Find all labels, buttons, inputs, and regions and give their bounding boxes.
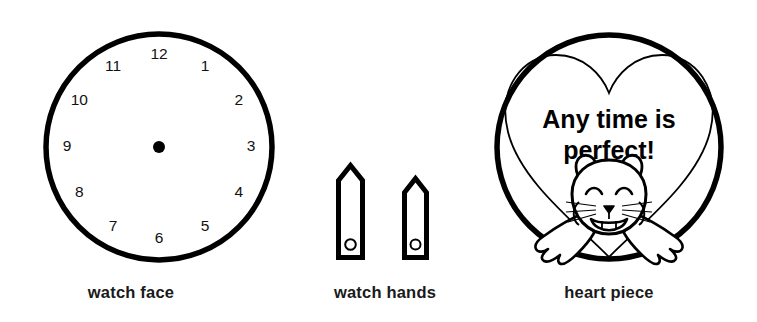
clock-center-dot <box>153 141 165 153</box>
heart-piece-caption: heart piece <box>478 283 740 302</box>
short-hand[interactable] <box>405 179 427 258</box>
craft-template-sheet: 121234567891011 watch face watch hands <box>0 0 757 322</box>
clock-numeral-10: 10 <box>71 91 89 108</box>
clock-numeral-9: 9 <box>63 137 72 154</box>
watch-hands-caption: watch hands <box>300 283 470 302</box>
watch-hands-piece[interactable]: watch hands <box>320 150 450 280</box>
short-hand-hole <box>411 240 421 250</box>
heart-piece[interactable]: Any time is perfect! <box>478 14 740 280</box>
clock-numeral-1: 1 <box>201 57 210 74</box>
long-hand-hole <box>345 239 356 250</box>
long-hand[interactable] <box>339 166 363 258</box>
clock-numeral-12: 12 <box>150 45 167 62</box>
clock-numeral-7: 7 <box>109 217 118 234</box>
watch-hands-drawing <box>320 150 450 280</box>
clock-numeral-4: 4 <box>234 183 243 200</box>
clock-numeral-2: 2 <box>234 91 243 108</box>
clock-numeral-5: 5 <box>201 217 210 234</box>
clock-numeral-3: 3 <box>247 137 256 154</box>
heart-message-line1: Any time is <box>542 105 675 133</box>
watch-face-caption: watch face <box>0 283 262 302</box>
watch-face-piece[interactable]: 121234567891011 watch face <box>28 16 290 278</box>
clock-numeral-8: 8 <box>75 183 84 200</box>
heart-piece-drawing: Any time is perfect! <box>478 14 740 280</box>
clock-numeral-11: 11 <box>105 57 121 74</box>
watch-face-drawing: 121234567891011 <box>28 16 290 278</box>
clock-numeral-6: 6 <box>155 229 164 246</box>
